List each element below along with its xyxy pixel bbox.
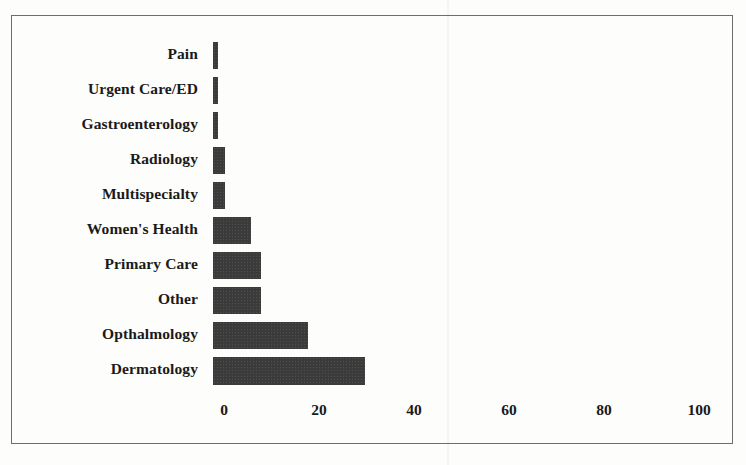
bar-primary-care xyxy=(213,252,261,279)
category-label-urgent-care-ed: Urgent Care/ED xyxy=(12,81,208,97)
bar-urgent-care-ed xyxy=(213,77,218,104)
category-label-other: Other xyxy=(12,291,208,307)
category-label-opthalmology: Opthalmology xyxy=(12,326,208,342)
bar-other xyxy=(213,287,261,314)
category-label-gastroenterology: Gastroenterology xyxy=(12,116,208,132)
chart-frame: Pain Urgent Care/ED Gastroenterology Rad… xyxy=(11,15,733,444)
x-tick-label-100: 100 xyxy=(687,401,710,419)
category-label-dermatology: Dermatology xyxy=(12,361,208,377)
x-tick-label-0: 0 xyxy=(220,401,228,419)
category-label-multispecialty: Multispecialty xyxy=(12,186,208,202)
category-label-womens-health: Women's Health xyxy=(12,221,208,237)
plot-area: Pain Urgent Care/ED Gastroenterology Rad… xyxy=(12,16,734,445)
bar-womens-health xyxy=(213,217,251,244)
value-axis-labels: 0 20 40 60 80 100 xyxy=(213,401,734,431)
bar-pain xyxy=(213,42,218,69)
category-label-pain: Pain xyxy=(12,46,208,62)
category-axis-labels: Pain Urgent Care/ED Gastroenterology Rad… xyxy=(12,42,208,396)
bar-opthalmology xyxy=(213,322,308,349)
x-tick-label-20: 20 xyxy=(311,401,327,419)
bar-gastroenterology xyxy=(213,112,218,139)
x-tick-label-40: 40 xyxy=(406,401,422,419)
bar-series xyxy=(213,42,734,396)
bar-radiology xyxy=(213,147,225,174)
x-tick-label-80: 80 xyxy=(596,401,612,419)
bar-dermatology xyxy=(213,357,365,385)
bar-multispecialty xyxy=(213,182,225,209)
scanned-page-background: Pain Urgent Care/ED Gastroenterology Rad… xyxy=(0,0,746,465)
x-tick-label-60: 60 xyxy=(501,401,517,419)
category-label-radiology: Radiology xyxy=(12,151,208,167)
category-label-primary-care: Primary Care xyxy=(12,256,208,272)
